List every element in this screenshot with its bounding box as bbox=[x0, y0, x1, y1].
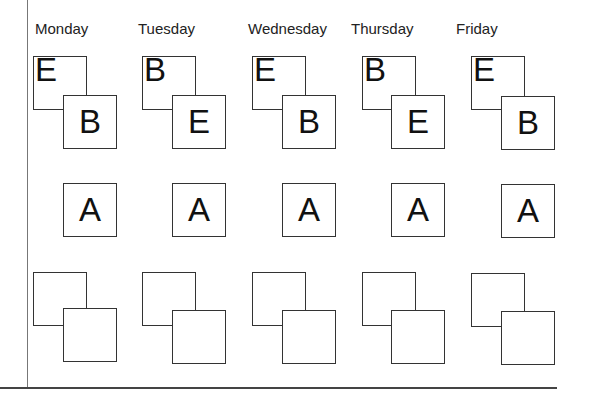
card-letter: A bbox=[283, 193, 335, 226]
card-letter: E bbox=[35, 53, 57, 86]
card-letter: E bbox=[254, 53, 276, 86]
card-letter: B bbox=[364, 53, 386, 86]
left-margin-line bbox=[27, 0, 28, 388]
bottom-front-card bbox=[172, 310, 226, 364]
day-label: Monday bbox=[35, 20, 88, 37]
top-front-card: B bbox=[282, 95, 336, 149]
card-letter: B bbox=[144, 53, 166, 86]
top-front-card: E bbox=[172, 95, 226, 149]
middle-card: A bbox=[282, 183, 336, 237]
day-label: Wednesday bbox=[248, 20, 327, 37]
bottom-front-card bbox=[63, 308, 117, 362]
card-letter: A bbox=[502, 194, 554, 227]
top-front-card: B bbox=[501, 96, 555, 150]
middle-card: A bbox=[172, 183, 226, 237]
day-label: Thursday bbox=[351, 20, 414, 37]
card-letter: B bbox=[64, 105, 116, 138]
card-letter: E bbox=[173, 105, 225, 138]
bottom-front-card bbox=[282, 310, 336, 364]
middle-card: A bbox=[501, 184, 555, 238]
card-letter: A bbox=[64, 193, 116, 226]
card-letter: E bbox=[473, 53, 495, 86]
card-letter: B bbox=[283, 105, 335, 138]
card-letter: E bbox=[392, 105, 444, 138]
day-label: Friday bbox=[456, 20, 498, 37]
top-front-card: B bbox=[63, 95, 117, 149]
bottom-front-card bbox=[501, 311, 555, 365]
top-front-card: E bbox=[391, 95, 445, 149]
middle-card: A bbox=[391, 183, 445, 237]
bottom-rule-line bbox=[0, 387, 557, 389]
day-label: Tuesday bbox=[138, 20, 195, 37]
card-letter: A bbox=[173, 193, 225, 226]
middle-card: A bbox=[63, 183, 117, 237]
card-letter: A bbox=[392, 193, 444, 226]
card-letter: B bbox=[502, 106, 554, 139]
bottom-front-card bbox=[391, 310, 445, 364]
